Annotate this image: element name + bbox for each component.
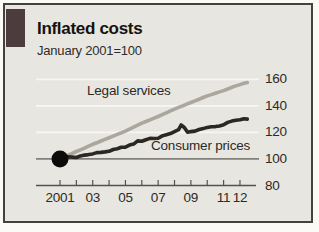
y-tick-label-120: 120 <box>265 124 299 140</box>
x-tick-label-2001: 2001 <box>45 190 74 206</box>
legal-services-label: Legal services <box>87 83 171 98</box>
x-tick-label-09: 09 <box>184 190 199 206</box>
x-tick-label-12: 12 <box>233 190 248 206</box>
x-tick-label-07: 07 <box>151 190 166 206</box>
y-tick-label-100: 100 <box>265 151 299 167</box>
y-tick-label-140: 140 <box>265 98 299 114</box>
x-tick-label-03: 03 <box>85 190 100 206</box>
x-tick-label-11: 11 <box>217 190 231 206</box>
start-dot <box>52 150 69 167</box>
x-tick-label-05: 05 <box>118 190 133 206</box>
scanned-chart-page: Inflated costs January 2001=100 Legal se… <box>0 0 319 232</box>
y-tick-label-160: 160 <box>265 71 299 87</box>
y-tick-label-80: 80 <box>265 178 299 194</box>
consumer-prices-label: Consumer prices <box>151 138 250 153</box>
